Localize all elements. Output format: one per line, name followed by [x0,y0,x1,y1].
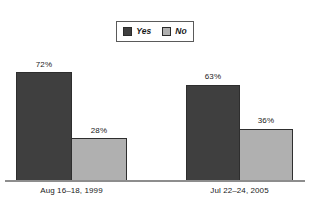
bar-value-yes-group-2: 63% [186,72,240,81]
bar-yes-group-1 [16,72,72,181]
bar-no-group-2 [239,129,293,181]
x-axis-label-group-2: Jul 22–24, 2005 [186,186,293,195]
bar-value-yes-group-1: 72% [16,60,72,69]
plot-area: 72% 28% 63% 36% Aug 16–18, 1999 Jul 22–2… [0,0,310,205]
bar-yes-group-2 [186,85,240,181]
x-axis-baseline [5,180,305,182]
bar-value-no-group-2: 36% [239,116,293,125]
bar-no-group-1 [71,138,127,181]
x-axis-label-group-1: Aug 16–18, 1999 [16,186,127,195]
bar-chart: Yes No 72% 28% 63% 36% Aug 16–18, 1999 J… [0,0,310,205]
bar-value-no-group-1: 28% [71,126,127,135]
